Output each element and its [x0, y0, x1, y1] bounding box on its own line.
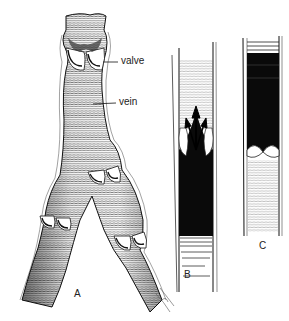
section-b [172, 42, 217, 292]
valve-callout: valve [121, 56, 144, 66]
section-c [243, 36, 282, 236]
blood-column-c [247, 53, 279, 152]
vein-callout: vein [119, 97, 137, 107]
panel-label-a: A [74, 289, 81, 299]
panel-label-b: B [184, 270, 191, 280]
panel-label-c: C [259, 241, 266, 251]
vein-valve-illustration [0, 0, 289, 321]
